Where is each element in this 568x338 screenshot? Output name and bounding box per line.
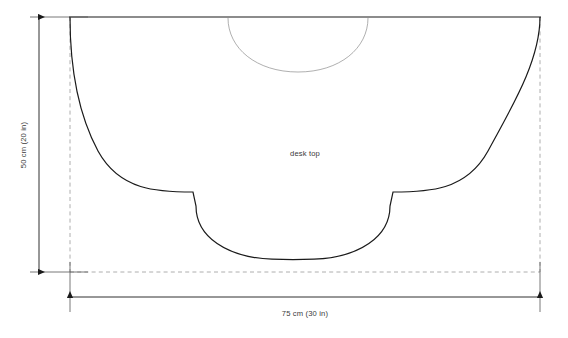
technical-drawing-canvas: 50 cm (20 in) 75 cm (30 in) desk top <box>0 0 568 338</box>
vertical-dimension-label: 50 cm (20 in) <box>19 122 28 169</box>
horizontal-dimension-label: 75 cm (30 in) <box>282 309 329 318</box>
desk-top-outline <box>69 17 541 260</box>
desk-top-profile-curve <box>70 17 540 260</box>
construction-semicircle-arc <box>228 18 368 72</box>
desk-top-drawing: 50 cm (20 in) 75 cm (30 in) desk top <box>0 0 568 338</box>
horizontal-dimension: 75 cm (30 in) <box>70 262 540 318</box>
part-label-desk-top: desk top <box>290 149 320 158</box>
vertical-dimension: 50 cm (20 in) <box>19 17 88 272</box>
dashed-bounding-box <box>70 17 540 272</box>
